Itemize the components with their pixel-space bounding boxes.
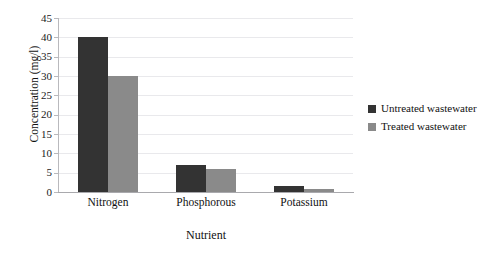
bar-group-bars [157,18,255,192]
chart-legend: Untreated wastewaterTreated wastewater [368,103,477,139]
legend-item: Untreated wastewater [368,103,477,114]
bar-group-bars [255,18,353,192]
bar-group: Nitrogen [59,18,157,192]
bar-nitrogen-untreated [78,37,108,192]
bar-chart-figure: 454035302520151050 NitrogenPhosphorousPo… [0,0,497,255]
bar-potassium-treated [304,189,334,192]
x-axis-line [58,192,354,193]
bar-phosphorous-untreated [176,165,206,192]
bar-group: Phosphorous [157,18,255,192]
x-axis-category-label: Phosphorous [176,196,235,208]
plot-area: NitrogenPhosphorousPotassium [59,18,353,192]
x-axis-category-label: Potassium [280,196,327,208]
legend-swatch-icon [368,123,376,131]
bar-potassium-untreated [274,186,304,192]
legend-swatch-icon [368,105,376,113]
bar-nitrogen-treated [108,76,138,192]
x-axis-category-label: Nitrogen [88,196,129,208]
bar-phosphorous-treated [206,169,236,192]
bar-group-bars [59,18,157,192]
legend-item-label: Untreated wastewater [381,103,477,114]
x-axis-title: Nutrient [59,228,353,243]
y-axis-tick-label: 0 [26,187,52,198]
legend-item: Treated wastewater [368,121,477,132]
bar-group: Potassium [255,18,353,192]
legend-item-label: Treated wastewater [381,121,466,132]
y-axis-title: Concentration (mg/l) [28,14,40,174]
